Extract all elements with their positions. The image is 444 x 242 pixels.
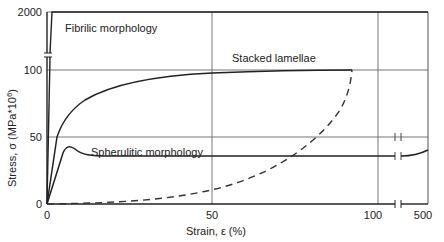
svg-text:2000: 2000	[18, 6, 42, 18]
x-tick-labels: 0 50 100 500	[44, 209, 432, 221]
y-axis-title: Stress, σ (MPa*106)	[5, 89, 18, 187]
spherulitic-curve-tail	[401, 150, 428, 156]
svg-text:100: 100	[24, 64, 42, 76]
fibrilic-curve	[47, 12, 428, 204]
svg-text:100: 100	[364, 209, 382, 221]
fibrilic-label: Fibrilic morphology	[65, 22, 158, 34]
svg-text:0: 0	[36, 198, 42, 210]
axes	[44, 12, 428, 208]
x-axis-title: Strain, ε (%)	[186, 225, 246, 237]
svg-text:0: 0	[44, 209, 50, 221]
grid	[47, 12, 428, 204]
svg-text:500: 500	[414, 209, 432, 221]
svg-text:50: 50	[30, 131, 42, 143]
spherulitic-label: Spherulitic morphology	[91, 146, 203, 158]
y-tick-labels: 2000 100 50 0	[18, 6, 42, 210]
svg-text:50: 50	[206, 209, 218, 221]
stacked-lamellae-label: Stacked lamellae	[232, 52, 316, 64]
stress-strain-chart: Fibrilic morphology Stacked lamellae Sph…	[0, 0, 444, 242]
